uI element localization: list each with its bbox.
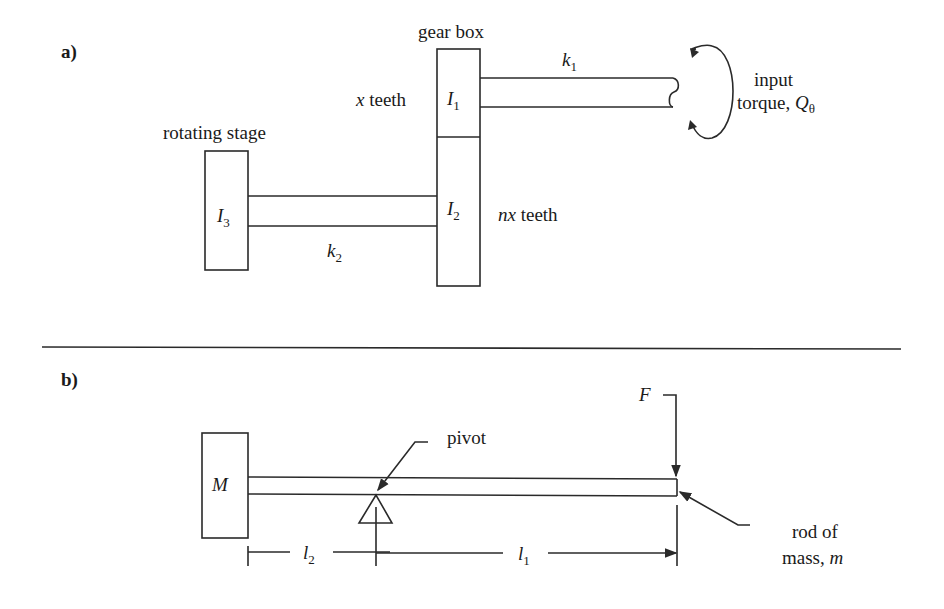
rotating-stage-label: rotating stage <box>163 122 266 143</box>
panel-b-label: b) <box>61 369 78 391</box>
length-l1: l1 <box>518 543 530 568</box>
stiffness-k2: k2 <box>327 240 342 265</box>
gear-box-label: gear box <box>418 21 484 42</box>
input-label: input <box>754 69 794 90</box>
inertia-I2: I2 <box>446 198 460 223</box>
force-F-label: F <box>638 384 651 405</box>
panel-b: b) M pivot F rod of mass, m l2 <box>61 369 843 568</box>
rod-label-line2: mass, m <box>782 547 843 568</box>
inertia-I3: I3 <box>216 205 230 230</box>
inertia-I1: I1 <box>446 88 460 113</box>
gear-box <box>437 49 480 286</box>
torque-arrow-icon <box>691 45 733 138</box>
nx-teeth-label: nx teeth <box>498 204 558 225</box>
torque-label: torque, Qθ <box>737 92 815 116</box>
torque-arrowhead-bottom-icon <box>688 120 697 130</box>
force-arrow-icon <box>663 395 676 476</box>
diagram-canvas: a) gear box I1 I2 x teeth nx teeth k1 in… <box>0 0 944 609</box>
rotating-stage <box>205 151 248 270</box>
x-teeth-label: x teeth <box>355 89 407 110</box>
rod-label-line1: rod of <box>792 521 839 542</box>
pivot-leader <box>378 442 428 490</box>
panel-divider <box>42 347 901 349</box>
rod-top <box>248 477 677 479</box>
pivot-label: pivot <box>447 427 487 448</box>
stiffness-k1: k1 <box>562 49 577 74</box>
rod-bottom <box>248 494 677 496</box>
panel-a: a) gear box I1 I2 x teeth nx teeth k1 in… <box>61 0 815 286</box>
mass-M-label: M <box>211 474 229 495</box>
shaft-break-icon <box>669 78 678 107</box>
panel-a-label: a) <box>61 41 77 63</box>
rod-leader <box>680 492 750 525</box>
length-l2: l2 <box>303 542 315 567</box>
